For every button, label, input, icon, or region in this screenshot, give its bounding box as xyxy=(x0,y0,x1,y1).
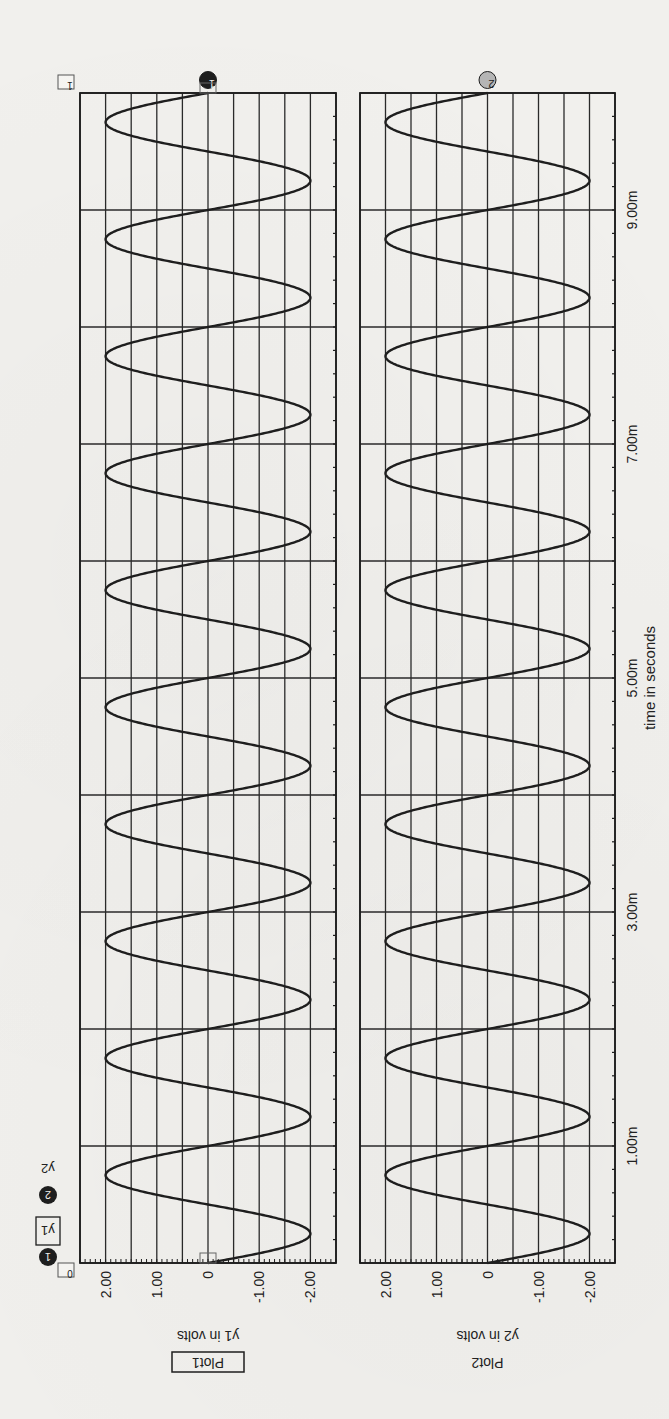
trace-marker-label: 2 xyxy=(488,78,494,90)
x-tick-label: 1.00m xyxy=(624,1127,640,1166)
y-tick-label: -1.00 xyxy=(251,1271,267,1303)
y-axis-label: y1 in volts xyxy=(177,1328,239,1344)
legend-label-y2[interactable]: y2 xyxy=(41,1161,55,1176)
paper-background xyxy=(0,0,669,1419)
legend-marker-label: 1 xyxy=(45,1251,51,1263)
cursor-label: 0 xyxy=(67,1268,73,1279)
y-tick-label: 1.00 xyxy=(149,1271,165,1298)
y-axis-label: y2 in volts xyxy=(456,1328,518,1344)
y-tick-label: 0 xyxy=(200,1271,216,1279)
legend-marker-label: 2 xyxy=(45,1189,51,1201)
x-tick-label: 7.00m xyxy=(624,425,640,464)
y-tick-label: -2.00 xyxy=(582,1271,598,1303)
x-tick-label: 5.00m xyxy=(624,659,640,698)
legend-label-y1[interactable]: y1 xyxy=(41,1223,55,1238)
trace-marker-label: 1 xyxy=(209,78,215,90)
x-axis-label: time in seconds xyxy=(641,626,658,730)
y-tick-label: 1.00 xyxy=(429,1271,445,1298)
y-tick-label: 0 xyxy=(480,1271,496,1279)
y-tick-label: 2.00 xyxy=(98,1271,114,1298)
y-tick-label: -1.00 xyxy=(531,1271,547,1303)
rotated-chart-stage: 2.001.000-1.00-2.00y1 in voltsPlot112.00… xyxy=(0,0,669,1419)
cursor-label: 1 xyxy=(67,80,73,91)
plot-name: Plot1 xyxy=(192,1355,224,1371)
x-tick-label: 9.00m xyxy=(624,191,640,230)
oscilloscope-chart: 2.001.000-1.00-2.00y1 in voltsPlot112.00… xyxy=(0,0,669,1419)
y-tick-label: -2.00 xyxy=(302,1271,318,1303)
y-tick-label: 2.00 xyxy=(378,1271,394,1298)
x-tick-label: 3.00m xyxy=(624,893,640,932)
plot-name: Plot2 xyxy=(471,1355,503,1371)
